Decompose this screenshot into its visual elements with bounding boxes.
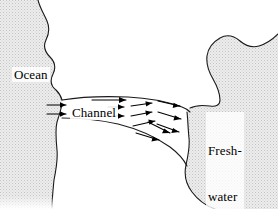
flow-arrow: [131, 110, 152, 116]
label-ocean: Ocean: [12, 67, 50, 82]
label-freshwater-lake-line2: water: [208, 189, 242, 204]
label-freshwater-lake-line1: Fresh-: [208, 143, 242, 158]
diagram-canvas: Ocean Channel Fresh- water lake: [0, 0, 278, 209]
flow-arrow: [158, 101, 180, 108]
label-channel: Channel: [70, 105, 118, 120]
label-freshwater-lake: Fresh- water lake: [206, 112, 244, 209]
flow-arrow: [131, 101, 152, 106]
flow-arrow: [133, 120, 155, 126]
flow-arrow: [92, 97, 126, 103]
flow-arrow: [158, 112, 181, 121]
